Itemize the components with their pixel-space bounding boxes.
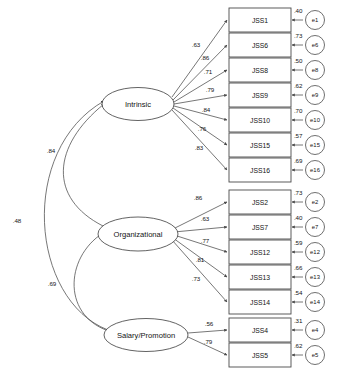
indicator-label-JSS13: JSS13 — [250, 274, 270, 281]
indicator-label-JSS10: JSS10 — [250, 117, 270, 124]
loading-label-JSS5: .79 — [204, 338, 213, 345]
latent-factor-label-organizational: Organizational — [114, 230, 163, 239]
correlation-label-intrinsic-organizational: .84 — [47, 147, 56, 154]
residual-label-JSS2: .73 — [294, 189, 303, 196]
loading-label-JSS10: .84 — [202, 106, 211, 113]
error-label-e12: e12 — [310, 249, 320, 255]
loading-label-JSS13: .81 — [196, 256, 205, 263]
sem-path-diagram: JSS1 JSS6 JSS8 JSS9 JSS10 JSS15 JSS16 JS… — [0, 0, 342, 369]
residual-label-JSS14: .54 — [294, 289, 303, 296]
error-label-e16: e16 — [310, 167, 321, 173]
error-label-e7: e7 — [312, 224, 319, 230]
error-label-e5: e5 — [312, 352, 319, 358]
loading-label-JSS8: .71 — [204, 68, 213, 75]
indicator-label-JSS8: JSS8 — [252, 67, 268, 74]
residual-label-JSS9: .62 — [294, 82, 303, 89]
loading-label-JSS16: .83 — [195, 144, 204, 151]
residual-label-JSS13: .66 — [294, 264, 303, 271]
error-label-e15: e15 — [310, 142, 321, 148]
error-label-e9: e9 — [312, 92, 319, 98]
residual-label-JSS10: .70 — [294, 107, 303, 114]
indicator-label-JSS7: JSS7 — [252, 224, 268, 231]
residual-label-JSS7: .40 — [294, 214, 303, 221]
indicator-label-JSS2: JSS2 — [252, 199, 268, 206]
error-label-e2: e2 — [312, 199, 319, 205]
indicator-label-JSS14: JSS14 — [250, 299, 270, 306]
error-label-e6: e6 — [312, 42, 319, 48]
loading-label-JSS12: .77 — [201, 237, 210, 244]
indicator-label-JSS5: JSS5 — [252, 352, 268, 359]
loading-label-JSS4: .56 — [205, 320, 214, 327]
residual-label-JSS15: .57 — [294, 132, 303, 139]
loading-label-JSS1: .63 — [192, 41, 201, 48]
loading-label-JSS7: .63 — [201, 215, 210, 222]
error-label-e8: e8 — [312, 67, 319, 73]
residual-label-JSS12: .59 — [294, 239, 303, 246]
indicator-label-JSS12: JSS12 — [250, 249, 270, 256]
residual-label-JSS8: .50 — [294, 57, 303, 64]
loading-label-JSS9: .79 — [206, 86, 215, 93]
residual-label-JSS1: .40 — [294, 7, 303, 14]
error-label-e10: e10 — [310, 117, 321, 123]
residual-label-JSS6: .73 — [294, 32, 303, 39]
loading-label-JSS15: .76 — [198, 125, 207, 132]
loading-label-JSS6: .86 — [201, 54, 210, 61]
indicator-label-JSS9: JSS9 — [252, 92, 268, 99]
loading-label-JSS2: .86 — [194, 194, 203, 201]
residual-label-JSS5: .62 — [294, 342, 303, 349]
indicator-label-JSS16: JSS16 — [250, 167, 270, 174]
latent-factor-label-intrinsic: Intrinsic — [125, 100, 151, 109]
error-label-e1: e1 — [312, 17, 319, 23]
indicator-label-JSS15: JSS15 — [250, 142, 270, 149]
loading-label-JSS14: .73 — [192, 275, 201, 282]
indicator-label-JSS4: JSS4 — [252, 327, 268, 334]
latent-factor-label-salary: Salary/Promotion — [117, 331, 175, 340]
error-label-e13: e13 — [310, 274, 321, 280]
residual-label-JSS16: .69 — [294, 157, 303, 164]
error-label-e14: e14 — [310, 299, 321, 305]
residual-label-JSS4: .31 — [294, 317, 303, 324]
correlation-label-organizational-salary: .69 — [48, 280, 57, 287]
indicator-label-JSS6: JSS6 — [252, 42, 268, 49]
error-label-e4: e4 — [312, 327, 319, 333]
indicator-label-JSS1: JSS1 — [252, 17, 268, 24]
correlation-label-intrinsic-salary: .48 — [13, 217, 22, 224]
